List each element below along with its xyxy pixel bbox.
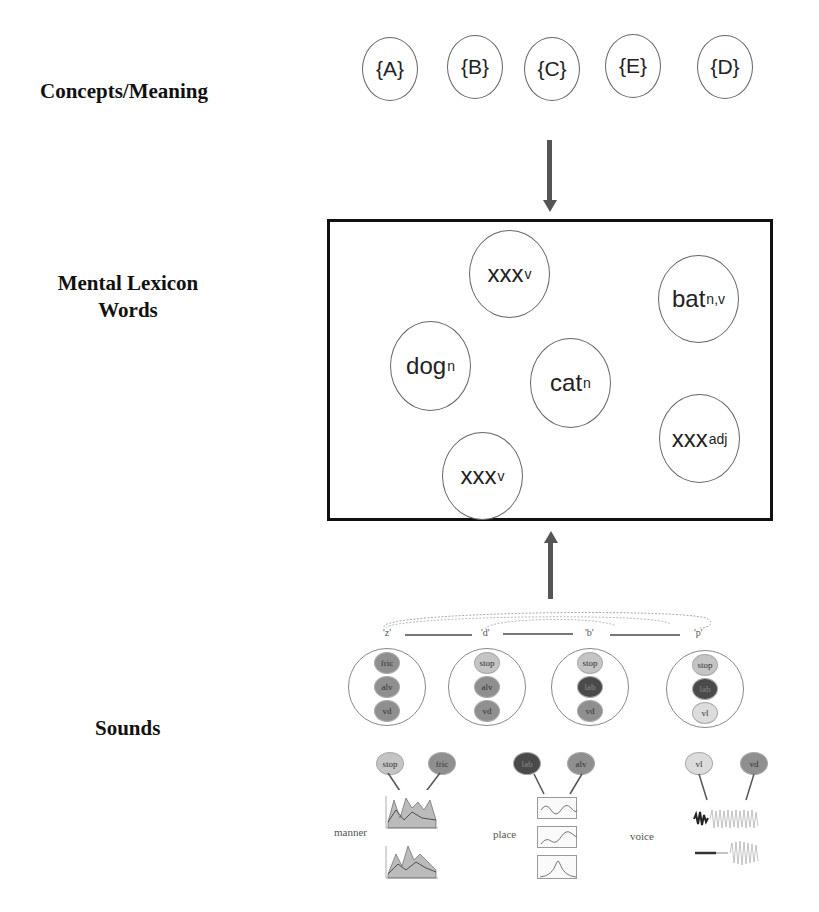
feature-place: alv xyxy=(474,676,500,698)
word-node-xxx-v-bottom: xxxv xyxy=(442,432,523,520)
feature-manner: stop xyxy=(692,654,718,676)
phoneme-label-b: 'b' xyxy=(585,627,594,638)
concept-node-e: {E} xyxy=(605,34,661,98)
place-spectrum-plot xyxy=(537,855,577,879)
word-subscript: n,v xyxy=(706,291,725,307)
dimension-label-place: place xyxy=(493,828,516,840)
voice-waveform-voiceless xyxy=(692,806,760,832)
segment-bundle-z: fric alv vd xyxy=(348,648,426,726)
word-subscript: n xyxy=(583,375,591,391)
manner-spectrogram-3d-bottom xyxy=(382,840,442,885)
word-node-xxx-adj: xxxadj xyxy=(659,394,740,483)
word-node-cat: catn xyxy=(530,338,611,428)
word-base: xxx xyxy=(488,260,524,288)
word-base: xxx xyxy=(672,425,708,453)
phoneme-connector xyxy=(405,634,472,636)
feature-manner: fric xyxy=(374,652,400,674)
word-node-xxx-v-top: xxxv xyxy=(469,230,550,318)
place-formant-plot-2 xyxy=(537,826,577,848)
concept-node-d: {D} xyxy=(697,35,753,99)
level-label-lexicon-line1: Mental Lexicon xyxy=(38,270,218,297)
word-node-dog: dogn xyxy=(390,321,471,411)
word-base: bat xyxy=(672,285,705,313)
dimension-label-voice: voice xyxy=(630,830,654,842)
feature-place: alv xyxy=(374,676,400,698)
phoneme-label-p: 'p' xyxy=(694,627,703,638)
phoneme-connector xyxy=(610,634,680,636)
dimension-label-manner: manner xyxy=(334,826,367,838)
word-base: xxx xyxy=(461,462,497,490)
feature-manner: stop xyxy=(577,652,603,674)
level-label-lexicon: Mental Lexicon Words xyxy=(38,270,218,324)
level-label-sounds: Sounds xyxy=(95,715,160,742)
manner-spectrogram-3d-top xyxy=(382,790,442,835)
voice-waveform-voiced xyxy=(692,838,760,868)
word-subscript: v xyxy=(498,468,505,484)
concept-node-b: {B} xyxy=(447,35,503,99)
concept-node-c: {C} xyxy=(524,37,580,101)
feature-voice: vd xyxy=(374,700,400,722)
segment-bundle-b: stop lab vd xyxy=(551,648,629,726)
phoneme-label-z: 'z' xyxy=(383,627,391,638)
word-base: dog xyxy=(406,352,446,380)
feature-place: lab xyxy=(692,678,718,700)
feature-manner: stop xyxy=(474,652,500,674)
word-base: cat xyxy=(550,369,582,397)
word-subscript: v xyxy=(525,266,532,282)
place-formant-plot-1 xyxy=(537,797,577,819)
phoneme-connector xyxy=(503,633,573,635)
level-label-concepts: Concepts/Meaning xyxy=(40,78,208,105)
word-subscript: adj xyxy=(709,431,728,447)
segment-bundle-p: stop lab vl xyxy=(666,650,744,728)
mental-lexicon-box: xxxv bat n,v dogn catn xxxadj xxxv xyxy=(327,219,773,521)
word-node-bat: bat n,v xyxy=(658,255,739,343)
feature-place: lab xyxy=(577,676,603,698)
voice-link-lines xyxy=(690,772,760,804)
feature-voice: vl xyxy=(692,702,718,724)
phoneme-label-d: 'd' xyxy=(481,627,490,638)
segment-bundle-d: stop alv vd xyxy=(448,648,526,726)
feature-voice: vd xyxy=(474,700,500,722)
concept-node-a: {A} xyxy=(362,37,418,101)
word-subscript: n xyxy=(447,358,455,374)
level-label-lexicon-line2: Words xyxy=(38,297,218,324)
feature-voice: vd xyxy=(577,700,603,722)
phoneme-sequence-arcs xyxy=(370,604,715,634)
